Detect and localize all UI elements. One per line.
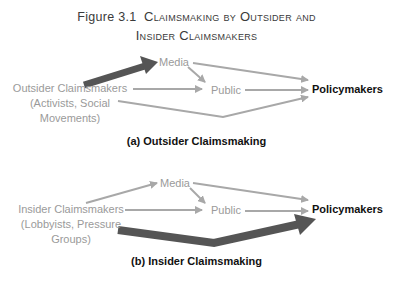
arrow-media-to-policymakers [193, 183, 308, 200]
panel-a-media-label: Media [159, 55, 189, 70]
arrow-media-to-public [190, 188, 205, 203]
arrow-insider-to-media [86, 183, 157, 203]
panel-b-media-label: Media [160, 176, 190, 191]
panel-b-caption: (b) Insider Claimsmaking [0, 255, 393, 267]
arrow-media-to-policymakers [193, 63, 308, 80]
panel-a-public-label: Public [211, 83, 241, 98]
arrow-outsider-to-policymakers [118, 97, 308, 117]
panel-b-policymakers-label: Policymakers [312, 203, 383, 215]
panel-b-public-label: Public [211, 203, 241, 218]
panel-b-source-label: Insider Claimsmakers (Lobbyists, Pressur… [18, 202, 124, 247]
arrow-media-to-public [188, 67, 205, 82]
panel-a-source-label: Outsider Claimsmakers (Activists, Social… [8, 81, 132, 126]
panel-a-policymakers-label: Policymakers [312, 83, 383, 95]
panel-a-caption: (a) Outsider Claimsmaking [0, 135, 393, 147]
thick-arrow-insider-to-policymakers [118, 214, 316, 243]
